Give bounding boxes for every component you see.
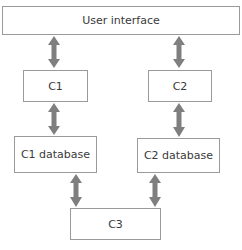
node-label: User interface xyxy=(82,14,160,27)
node-c1-database: C1 database xyxy=(14,136,97,173)
node-c2: C2 xyxy=(148,70,212,102)
arrow-c2-c2db xyxy=(173,103,185,137)
node-label: C1 database xyxy=(21,148,90,161)
node-c1: C1 xyxy=(23,70,88,102)
node-user-interface: User interface xyxy=(2,6,240,35)
arrow-ui-c2 xyxy=(173,36,185,68)
node-label: C2 xyxy=(173,80,188,93)
arrow-c2db-c3 xyxy=(149,174,161,207)
arrow-c1-c1db xyxy=(48,103,60,135)
node-c2-database: C2 database xyxy=(137,138,220,173)
node-label: C1 xyxy=(48,80,63,93)
node-label: C2 database xyxy=(144,149,213,162)
arrow-c1db-c3 xyxy=(70,174,82,207)
node-label: C3 xyxy=(108,218,123,231)
arrow-ui-c1 xyxy=(48,36,60,68)
node-c3: C3 xyxy=(70,208,161,240)
